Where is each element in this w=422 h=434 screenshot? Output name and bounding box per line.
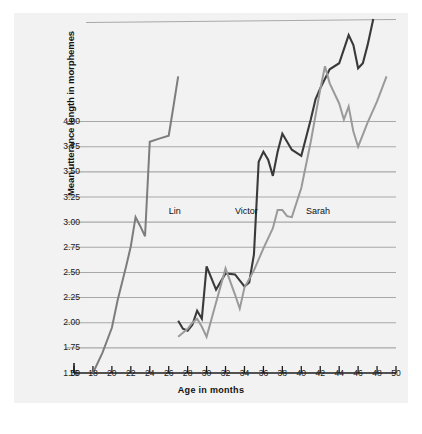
x-tick-label: 38 [272, 369, 292, 378]
y-axis-title: Mean utterance length in morphemes [65, 14, 76, 214]
y-tick-label: 3.00 [46, 218, 80, 227]
y-tick-label: 2.75 [46, 243, 80, 252]
series-label-lin: Lin [169, 207, 181, 216]
x-axis-ticks: 161820222426283032343638404244464850 [14, 365, 408, 387]
x-tick-label: 44 [329, 369, 349, 378]
series-label-victor: Victor [235, 207, 258, 216]
series-line-sarah [178, 66, 386, 337]
x-tick-label: 48 [367, 369, 387, 378]
x-tick-label: 22 [121, 369, 141, 378]
gridline-horizontal-extra [86, 20, 396, 23]
x-tick-label: 18 [83, 369, 103, 378]
y-tick-label: 2.00 [46, 318, 80, 327]
x-tick-label: 32 [216, 369, 236, 378]
x-tick-label: 34 [234, 369, 254, 378]
x-tick-label: 50 [386, 369, 406, 378]
x-tick-label: 24 [140, 369, 160, 378]
chart-figure: 1.501.752.002.252.502.753.003.253.503.75… [0, 0, 422, 434]
series-label-sarah: Sarah [306, 207, 330, 216]
x-tick-label: 28 [178, 369, 198, 378]
x-tick-label: 36 [253, 369, 273, 378]
x-tick-label: 42 [310, 369, 330, 378]
x-tick-label: 26 [159, 369, 179, 378]
y-tick-label: 1.75 [46, 343, 80, 352]
plot-area: 1.501.752.002.252.502.753.003.253.503.75… [14, 13, 408, 403]
series-line-lin [93, 76, 178, 373]
x-tick-label: 30 [197, 369, 217, 378]
y-tick-label: 2.50 [46, 268, 80, 277]
x-tick-label: 16 [64, 369, 84, 378]
x-tick-label: 20 [102, 369, 122, 378]
x-tick-label: 40 [291, 369, 311, 378]
x-tick-label: 46 [348, 369, 368, 378]
x-axis-title: Age in months [14, 385, 408, 395]
y-tick-label: 2.25 [46, 293, 80, 302]
series-line-victor [178, 19, 373, 331]
